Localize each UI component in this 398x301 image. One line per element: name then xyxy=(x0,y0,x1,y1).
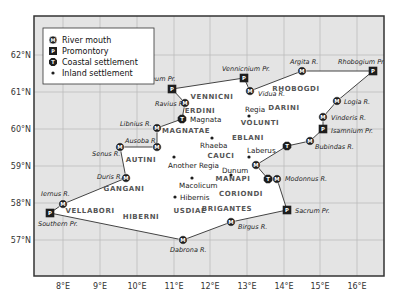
inland-settlement-dot-icon xyxy=(247,114,250,117)
latitude-tick-label: 58°N xyxy=(11,199,31,208)
coast-point-label: Magnata xyxy=(190,115,221,124)
longitude-tick-label: 13°E xyxy=(237,282,256,291)
coast-point-label: Vennicnium Pr. xyxy=(222,65,270,73)
coast-point-label: Vidua R. xyxy=(258,90,285,98)
tribe-label: AUTINI xyxy=(126,156,156,164)
svg-text:M: M xyxy=(247,88,252,94)
svg-text:M: M xyxy=(60,201,65,207)
coast-point-label: Iernus R. xyxy=(41,190,70,198)
tribe-label: CORIONDI xyxy=(219,190,263,198)
svg-text:M: M xyxy=(307,138,312,144)
svg-text:P: P xyxy=(170,86,174,92)
latitude-tick-label: 60°N xyxy=(11,125,31,134)
coast-point-label: Dabrona R. xyxy=(170,246,207,254)
svg-text:P: P xyxy=(371,68,375,74)
longitude-tick-label: 15°E xyxy=(310,282,329,291)
tribe-label: VOLUNTI xyxy=(241,119,280,127)
legend-item: Inland settlement xyxy=(51,69,132,78)
town-label: Dunum xyxy=(222,166,248,175)
svg-text:M: M xyxy=(51,37,56,43)
tribe-label: VELLABORI xyxy=(65,207,114,215)
svg-text:P: P xyxy=(242,75,246,81)
tribe-label: GANGANI xyxy=(104,185,145,193)
svg-text:M: M xyxy=(154,125,159,131)
inland-settlement-dot-icon xyxy=(247,155,250,158)
tribe-label: EBLANI xyxy=(232,134,264,142)
svg-text:T: T xyxy=(180,116,184,122)
coast-point-label: Isamnium Pr. xyxy=(331,127,373,135)
coast-point-label: Logia R. xyxy=(344,98,370,106)
legend-label: River mouth xyxy=(62,36,111,45)
town-label: Hibernis xyxy=(180,193,210,202)
legend-item: TCoastal settlement xyxy=(49,58,138,67)
inland-settlement-dot-icon xyxy=(210,136,213,139)
tribe-label: HIBERNI xyxy=(123,213,160,221)
coast-point-label: Bubindas R. xyxy=(315,143,354,151)
coast-point-label: Ravius R. xyxy=(155,100,185,108)
tribe-label: MANAPI xyxy=(216,175,251,183)
svg-text:M: M xyxy=(320,114,325,120)
coast-point-label: Modonnus R. xyxy=(285,175,327,183)
inland-settlement-dot-icon xyxy=(51,71,54,74)
svg-text:M: M xyxy=(274,176,279,182)
inland-settlement-dot-icon xyxy=(173,195,176,198)
coast-point-label: Ausoba R. xyxy=(124,137,158,145)
town-label: Macolicum xyxy=(179,181,217,190)
coast-point-label: Southern Pr. xyxy=(38,220,78,228)
longitude-tick-label: 8°E xyxy=(56,282,70,291)
coast-point-label: Senus R. xyxy=(92,150,120,158)
tribe-label: ERDINI xyxy=(185,107,216,115)
coast-point-label: Rhobogium Pr. xyxy=(338,58,385,66)
svg-text:T: T xyxy=(266,176,270,182)
longitude-tick-label: 12°E xyxy=(200,282,219,291)
longitude-tick-label: 9°E xyxy=(93,282,107,291)
svg-text:M: M xyxy=(253,162,258,168)
town-label: Laberus xyxy=(247,146,276,155)
svg-text:M: M xyxy=(180,237,185,243)
coast-point-label: Sacrum Pr. xyxy=(295,207,330,215)
tribe-label: DARINI xyxy=(268,104,299,112)
svg-text:T: T xyxy=(51,59,55,65)
legend-label: Promontory xyxy=(62,47,109,56)
town-label: Another Regia xyxy=(168,161,219,170)
coast-point-label: Duris R. xyxy=(97,173,123,181)
inland-settlement-dot-icon xyxy=(172,155,175,158)
inland-settlement-dot-icon xyxy=(190,176,193,179)
latitude-tick-label: 62°N xyxy=(11,51,31,60)
latitude-tick-label: 61°N xyxy=(11,88,31,97)
longitude-tick-label: 11°E xyxy=(164,282,183,291)
svg-text:M: M xyxy=(334,98,339,104)
legend-label: Coastal settlement xyxy=(62,58,138,67)
tribe-label: CAUCI xyxy=(208,152,235,160)
tribe-label: VENNICNI xyxy=(191,93,234,101)
town-label: Rhaeba xyxy=(200,141,227,150)
legend: MRiver mouthPPromontoryTCoastal settleme… xyxy=(43,28,154,84)
longitude-tick-label: 14°E xyxy=(274,282,293,291)
town-label: Regia xyxy=(245,105,265,114)
svg-text:M: M xyxy=(228,219,233,225)
svg-text:P: P xyxy=(321,126,325,132)
coast-point-label: Birgus R. xyxy=(238,223,267,231)
coast-point-label: Libnius R. xyxy=(120,120,152,128)
svg-text:M: M xyxy=(299,68,304,74)
longitude-tick-label: 16°E xyxy=(347,282,366,291)
longitude-tick-label: 10°E xyxy=(127,282,146,291)
svg-text:T: T xyxy=(285,143,289,149)
tribe-label: MAGNATAE xyxy=(162,127,210,135)
tribe-label: BRIGANTES xyxy=(202,205,252,213)
svg-text:P: P xyxy=(51,48,55,54)
map: VENNICNIRHOBOGDIERDINIDARINIMAGNATAEVOLU… xyxy=(0,0,398,301)
svg-text:M: M xyxy=(123,175,128,181)
svg-text:P: P xyxy=(48,210,52,216)
coast-point-label: Vinderis R. xyxy=(331,114,366,122)
latitude-tick-label: 59°N xyxy=(11,162,31,171)
coast-point-label: Argita R. xyxy=(289,58,318,66)
legend-label: Inland settlement xyxy=(62,69,133,78)
latitude-tick-label: 57°N xyxy=(11,236,31,245)
svg-text:P: P xyxy=(285,207,289,213)
